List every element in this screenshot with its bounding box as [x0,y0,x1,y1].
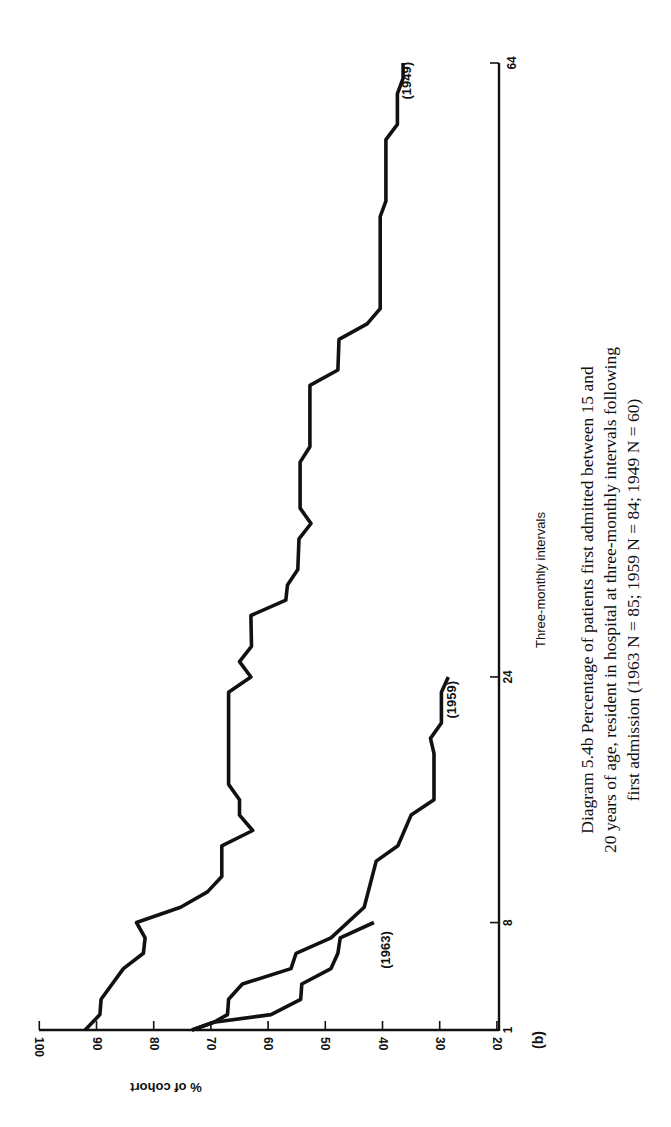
series-label-1949: (1949) [399,62,414,100]
y-tick-label: 70 [204,1037,218,1051]
y-tick-label: 80 [147,1037,161,1051]
series-label-1963: (1963) [378,931,393,969]
caption-line-2: 20 years of age, resident in hospital at… [600,347,620,853]
panel-label: (b) [530,1031,546,1049]
x-axis-title: Three-monthly intervals [533,512,548,648]
chart-figure: 1009080706050403020 182464 (1949) (1959)… [0,0,671,1127]
x-axis-ticks: 182464 [490,56,519,1033]
series-line-1959 [192,677,448,1030]
y-tick-label: 20 [490,1037,504,1051]
series-label-1959: (1959) [444,681,459,719]
y-tick-label: 50 [318,1037,332,1051]
y-tick-label: 90 [90,1037,104,1051]
series-line-1949 [85,63,403,1030]
x-tick-label: 1 [501,1026,515,1033]
x-tick-label: 24 [501,670,515,684]
y-axis-title: % of cohort [130,1080,202,1095]
series-line-1963 [192,923,374,1031]
x-tick-label: 64 [505,56,519,70]
y-tick-label: 60 [261,1037,275,1051]
y-tick-label: 100 [32,1037,46,1057]
x-tick-label: 8 [501,919,515,926]
y-tick-label: 40 [376,1037,390,1051]
y-tick-label: 30 [433,1037,447,1051]
caption-line-3: first admission (1963 N = 85; 1959 N = 8… [623,399,643,802]
y-axis-ticks: 1009080706050403020 [32,1021,504,1057]
caption-line-1: Diagram 5.4b Percentage of patients firs… [577,366,597,834]
